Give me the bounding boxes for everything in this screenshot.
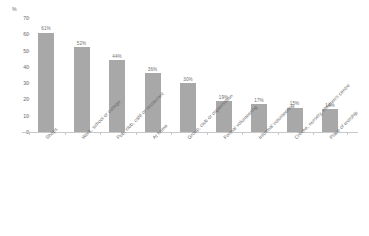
bar [109, 60, 125, 132]
y-axis-tick-label: 50 [9, 48, 29, 54]
bar-value-label: 44% [112, 54, 121, 59]
x-axis-tick-mark [100, 132, 101, 135]
bar [180, 83, 196, 132]
bar-item: 14% [322, 18, 338, 132]
bar-item: 19% [216, 18, 232, 132]
x-axis-tick-mark [171, 132, 172, 135]
x-axis-tick-mark [313, 132, 314, 135]
bar-value-label: 61% [41, 26, 50, 31]
bar-item: 15% [287, 18, 303, 132]
y-axis-tick-mark [27, 50, 30, 51]
x-axis-tick-mark [29, 132, 30, 135]
y-axis-tick-mark [27, 18, 30, 19]
bar-item: 44% [109, 18, 125, 132]
y-axis-tick-label: 10 [9, 113, 29, 119]
y-axis-tick-label: 20 [9, 96, 29, 102]
y-axis-tick-mark [27, 83, 30, 84]
y-axis-tick-mark [27, 34, 30, 35]
bar-item: 52% [74, 18, 90, 132]
y-axis-tick-mark [27, 115, 30, 116]
bar-item: 30% [180, 18, 196, 132]
y-axis-tick-label: 70 [9, 15, 29, 21]
y-axis-tick-label: 30 [9, 80, 29, 86]
y-axis-tick-mark [27, 66, 30, 67]
x-axis-tick-mark [242, 132, 243, 135]
bar-value-label: 17% [254, 98, 263, 103]
bar-value-label: 30% [183, 77, 192, 82]
y-axis-tick-label: 60 [9, 31, 29, 37]
bar-item: 36% [145, 18, 161, 132]
x-axis-tick-mark [136, 132, 137, 135]
bar [74, 47, 90, 132]
bar-item: 61% [38, 18, 54, 132]
bar-chart: % 010203040506070 61%52%44%36%30%19%17%1… [0, 0, 369, 236]
bar-item: 17% [251, 18, 267, 132]
y-axis-unit-label: % [12, 6, 17, 12]
bar [38, 33, 54, 132]
x-axis-tick-mark [278, 132, 279, 135]
x-axis-tick-mark [347, 132, 348, 135]
x-axis-tick-mark [65, 132, 66, 135]
bar-value-label: 36% [148, 67, 157, 72]
x-axis-tick-mark [207, 132, 208, 135]
y-axis-tick-label: 40 [9, 64, 29, 70]
y-axis-tick-mark [27, 99, 30, 100]
bar-value-label: 52% [77, 41, 86, 46]
